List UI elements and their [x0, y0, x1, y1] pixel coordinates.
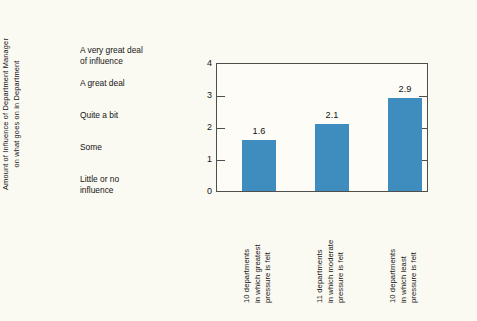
bar-value-label-moderate-pressure: 2.1: [312, 110, 352, 120]
y-axis-tick-label-4: 4: [198, 58, 212, 68]
y-axis-category-label-2: Quite a bit: [80, 110, 198, 121]
y-axis-tick-label-0: 0: [198, 186, 212, 196]
y-axis-tick-mark-2: [217, 128, 225, 129]
y-axis-category-label-1: Some: [80, 142, 198, 153]
bar-least-pressure: [388, 98, 422, 191]
y-axis-category-label-3: A great deal: [80, 78, 198, 89]
x-axis-label-wrap-0: 10 departments in which greatest pressur…: [241, 195, 275, 307]
y-axis-tick-mark-3: [217, 96, 225, 97]
x-axis-label-greatest-pressure: 10 departments in which greatest pressur…: [242, 195, 274, 303]
bar-moderate-pressure: [315, 124, 349, 191]
y-axis-tick-mark-1: [217, 160, 225, 161]
bar-value-label-greatest-pressure: 1.6: [239, 126, 279, 136]
y-axis-title: Amount of Influence of Department Manage…: [1, 24, 41, 204]
y-axis-category-label-0: Little or no influence: [80, 174, 198, 196]
y-axis-tick-label-2: 2: [198, 122, 212, 132]
plot-area: 1.6 2.1 2.9: [216, 63, 428, 192]
bar-value-label-least-pressure: 2.9: [385, 84, 425, 94]
x-axis-label-wrap-1: 11 departments in which moderate pressur…: [314, 195, 348, 307]
x-axis-labels: 10 departments in which greatest pressur…: [216, 195, 428, 313]
x-axis-label-wrap-2: 10 departments in which least pressure i…: [387, 195, 421, 307]
x-axis-label-moderate-pressure: 11 departments in which moderate pressur…: [315, 195, 347, 303]
y-axis-category-labels: A very great deal of influence A great d…: [80, 45, 198, 197]
bar-greatest-pressure: [242, 140, 276, 191]
y-axis-tick-label-1: 1: [198, 154, 212, 164]
y-axis-tick-label-3: 3: [198, 90, 212, 100]
x-axis-label-least-pressure: 10 departments in which least pressure i…: [388, 195, 420, 303]
y-axis-tick-labels: 4 3 2 1 0: [198, 45, 212, 197]
bar-chart-figure: Amount of Influence of Department Manage…: [0, 0, 477, 321]
y-axis-right-tick-mark-3: [419, 96, 427, 97]
y-axis-category-label-4: A very great deal of influence: [80, 45, 198, 67]
